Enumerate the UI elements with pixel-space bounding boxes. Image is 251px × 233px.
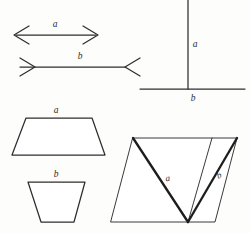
illusions-svg: a b a b a b xyxy=(0,0,251,233)
vertical-horizontal-label-a: a xyxy=(193,39,198,49)
trapezoids-panel: a b xyxy=(12,105,105,222)
small-trapezoid-b xyxy=(28,182,85,222)
sander-parallelogram-panel: a b xyxy=(111,138,237,222)
trapezoid-label-b: b xyxy=(54,169,59,179)
line-b-right-arrowhead-inward xyxy=(125,58,140,76)
muller-lyer-label-a: a xyxy=(53,19,58,29)
muller-lyer-panel: a b xyxy=(14,19,140,76)
muller-lyer-label-b: b xyxy=(78,51,83,61)
vertical-horizontal-label-b: b xyxy=(191,93,196,103)
large-trapezoid-a xyxy=(12,118,105,155)
vertical-horizontal-panel: a b xyxy=(140,0,245,103)
trapezoid-label-a: a xyxy=(54,105,59,115)
illusions-figure: a b a b a b xyxy=(0,0,251,233)
